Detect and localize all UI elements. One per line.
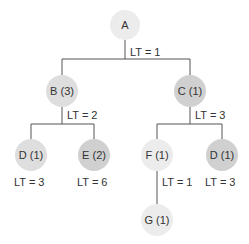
node-d-right-label: D (1) [210,149,234,161]
node-a: A [110,10,140,40]
node-c: C (1) [174,75,206,107]
node-g-label: G (1) [144,214,169,226]
node-d-left-label: D (1) [19,149,43,161]
product-structure-tree: A B (3) C (1) D (1) E (2) F (1) D (1) G … [0,0,249,244]
node-c-label: C (1) [178,85,202,97]
node-b: B (3) [46,75,78,107]
node-f-label: F (1) [145,149,168,161]
node-a-label: A [121,19,129,31]
lead-time-d-right: LT = 3 [205,176,235,188]
node-d-left: D (1) [15,139,47,171]
lead-time-b: LT = 2 [67,109,97,121]
tree-edges [31,40,222,204]
lead-time-c: LT = 3 [195,109,225,121]
node-e-label: E (2) [82,149,106,161]
node-f: F (1) [141,139,173,171]
lead-time-e: LT = 6 [77,176,107,188]
lead-time-a: LT = 1 [130,46,160,58]
lead-time-labels: LT = 1 LT = 2 LT = 3 LT = 3 LT = 6 LT = … [14,46,235,188]
node-g: G (1) [141,204,173,236]
lead-time-d-left: LT = 3 [14,176,44,188]
lead-time-f: LT = 1 [162,176,192,188]
node-b-label: B (3) [50,85,74,97]
node-e: E (2) [78,139,110,171]
node-d-right: D (1) [206,139,238,171]
